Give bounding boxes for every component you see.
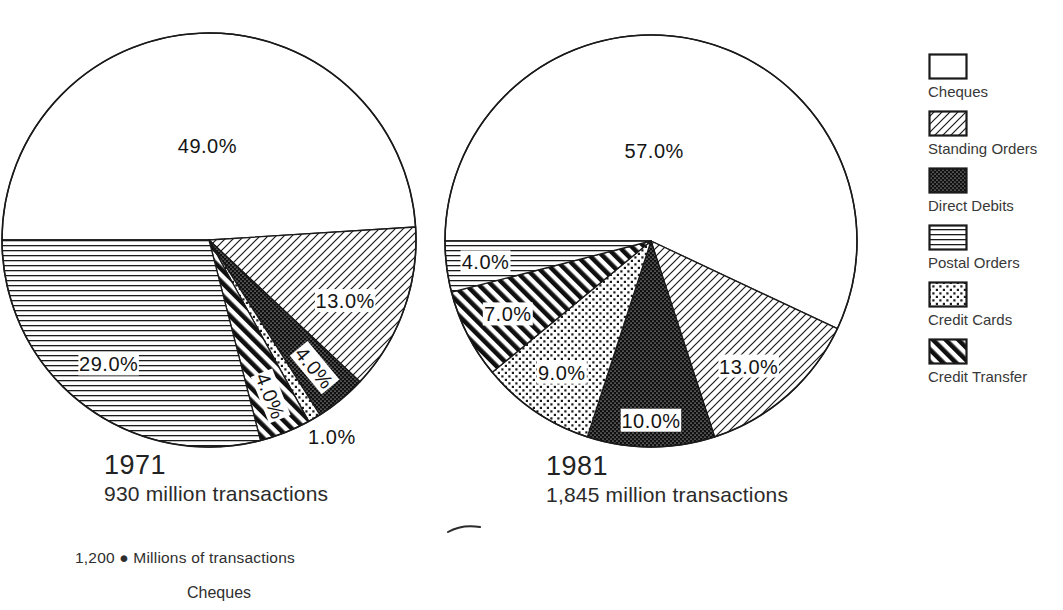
svg-text:57.0%: 57.0% xyxy=(625,140,684,162)
legend-item-cheques: Cheques xyxy=(928,53,1063,100)
pie-1971-total-label: 930 million transactions xyxy=(104,483,328,505)
slice-label-1981-cheques: 57.0% xyxy=(625,140,684,162)
slice-label-1981-standing-orders: 13.0% xyxy=(718,355,779,378)
legend-label-direct-debits: Direct Debits xyxy=(928,197,1063,214)
slice-label-1971-cheques: 49.0% xyxy=(178,135,237,157)
footer-axis-note: 1,200 ● Millions of transactions xyxy=(75,549,295,567)
svg-text:1.0%: 1.0% xyxy=(308,426,356,448)
pie-1981-caption-block: 1981 1,845 million transactions xyxy=(546,452,788,506)
pie-1981-year-label: 1981 xyxy=(546,452,788,480)
legend-item-credit-transfer: Credit Transfer xyxy=(928,338,1063,385)
legend-label-credit-transfer: Credit Transfer xyxy=(928,368,1063,385)
legend-item-direct-debits: Direct Debits xyxy=(928,167,1063,214)
svg-text:7.0%: 7.0% xyxy=(484,303,532,325)
pie-1971: 49.0%13.0%4.0%1.0%4.0%29.0% xyxy=(2,33,416,448)
pie-1971-year-label: 1971 xyxy=(104,451,328,479)
slice-label-1981-credit-cards: 9.0% xyxy=(537,361,587,384)
slice-label-1971-postal-orders: 29.0% xyxy=(78,352,138,375)
svg-text:29.0%: 29.0% xyxy=(79,353,138,375)
slice-label-1981-postal-orders: 4.0% xyxy=(461,250,511,273)
legend-label-cheques: Cheques xyxy=(928,83,1063,100)
slice-label-1981-credit-transfer: 7.0% xyxy=(483,302,533,325)
slice-label-1981-direct-debits: 10.0% xyxy=(621,409,682,432)
pie-1981-total-label: 1,845 million transactions xyxy=(546,484,788,506)
svg-text:9.0%: 9.0% xyxy=(538,362,586,384)
legend-label-standing-orders: Standing Orders xyxy=(928,140,1063,157)
svg-text:10.0%: 10.0% xyxy=(621,410,680,432)
legend-label-credit-cards: Credit Cards xyxy=(928,311,1063,328)
svg-text:4.0%: 4.0% xyxy=(462,251,510,273)
legend: Cheques Standing Orders Direct Debits Po… xyxy=(928,53,1063,395)
pie-1981: 57.0%13.0%10.0%9.0%7.0%4.0% xyxy=(445,35,857,447)
svg-text:49.0%: 49.0% xyxy=(178,135,237,157)
pie-charts-canvas: 49.0%13.0%4.0%1.0%4.0%29.0% 57.0%13.0%10… xyxy=(0,0,1063,610)
legend-item-postal-orders: Postal Orders xyxy=(928,224,1063,271)
svg-text:13.0%: 13.0% xyxy=(719,356,778,378)
legend-item-credit-cards: Credit Cards xyxy=(928,281,1063,328)
footer-category-label: Cheques xyxy=(187,584,251,602)
pie-chart-figure: 49.0%13.0%4.0%1.0%4.0%29.0% 57.0%13.0%10… xyxy=(0,0,1063,610)
svg-text:13.0%: 13.0% xyxy=(316,290,375,312)
legend-item-standing-orders: Standing Orders xyxy=(928,110,1063,157)
pen-mark xyxy=(447,523,483,535)
slice-label-1971-credit-cards: 1.0% xyxy=(308,426,356,448)
pie-1971-caption-block: 1971 930 million transactions xyxy=(104,451,328,505)
legend-label-postal-orders: Postal Orders xyxy=(928,254,1063,271)
slice-label-1971-standing-orders: 13.0% xyxy=(315,289,376,312)
